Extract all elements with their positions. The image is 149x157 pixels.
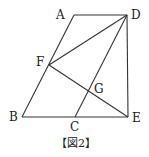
segment-AB — [22, 15, 74, 117]
segment-FE — [49, 65, 128, 117]
segment-DE — [127, 15, 128, 117]
point-label-D: D — [131, 8, 141, 22]
point-label-C: C — [70, 120, 79, 134]
point-label-E: E — [132, 111, 141, 125]
figure-caption: 【図2】 — [56, 137, 96, 150]
point-label-G: G — [94, 82, 104, 96]
segment-DC — [75, 15, 127, 117]
point-label-A: A — [55, 8, 65, 22]
point-label-F: F — [36, 55, 44, 69]
point-label-B: B — [9, 110, 18, 124]
geometry-figure: A D F G B C E 【図2】 — [0, 0, 149, 157]
